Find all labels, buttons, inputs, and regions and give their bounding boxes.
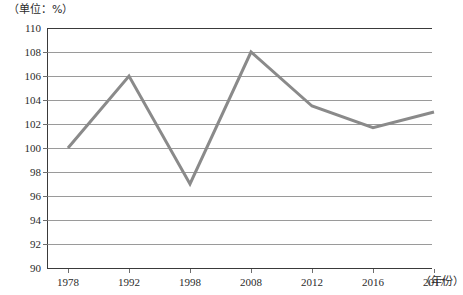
x-tick-mark [434,269,435,273]
x-tick-mark [68,269,69,273]
y-tick-mark [43,244,48,245]
x-tick-label: 1992 [105,276,153,288]
x-tick-mark [190,269,191,273]
x-tick-label: 1978 [44,276,92,288]
y-tick-mark [43,124,48,125]
x-tick-label: 2016 [349,276,397,288]
y-tick-mark [43,220,48,221]
line-chart-figure: （单位：%） 1101081061041021009896949290 1978… [0,0,463,295]
x-tick-mark [312,269,313,273]
y-tick-mark [43,172,48,173]
series-polyline [68,52,434,184]
y-tick-mark [43,52,48,53]
x-tick-mark [373,269,374,273]
x-tick-label: 2008 [227,276,275,288]
y-tick-mark [43,100,48,101]
series-line [0,0,463,295]
x-tick-label: 2012 [288,276,336,288]
y-tick-mark [43,76,48,77]
y-tick-mark [43,196,48,197]
x-tick-label: 1998 [166,276,214,288]
x-tick-mark [129,269,130,273]
y-tick-mark [43,148,48,149]
x-axis-title: （年份） [420,276,463,288]
x-tick-mark [251,269,252,273]
